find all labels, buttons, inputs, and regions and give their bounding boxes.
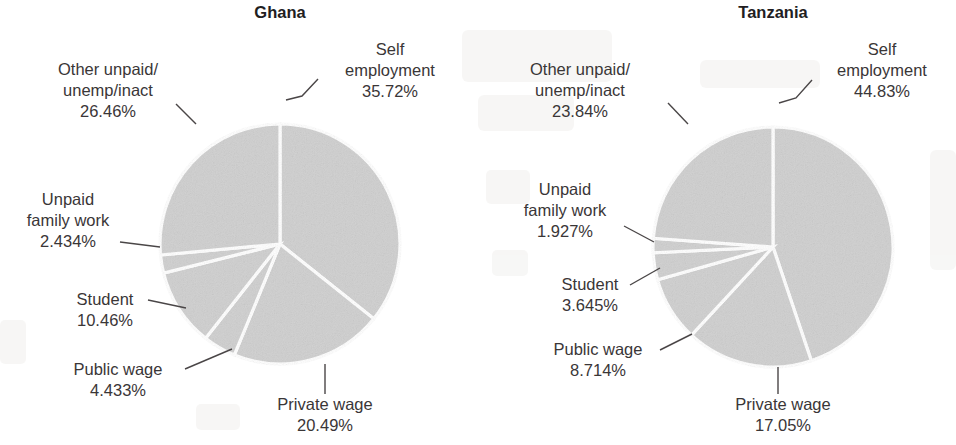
pie-slices-ghana [160,124,400,364]
slice-label-line: 17.05% [755,416,811,434]
slice-label-line: family work [524,201,607,219]
slice-label-line: unemp/inact [535,81,625,99]
slice-label-line: Student [77,290,134,308]
pie-ghana [160,124,400,364]
slice-label-line: Unpaid [42,190,94,208]
pie-tanzania [653,127,893,367]
slice-label-line: 35.72% [362,82,418,100]
slice-label-line: Unpaid [539,180,591,198]
slice-label-line: 23.84% [552,102,608,120]
slice-label-line: 4.433% [90,381,146,399]
figure-container: Ghana Selfemployment35.72%Other unpaid/u… [0,0,956,445]
slice-label-line: family work [27,211,110,229]
pie-charts-figure: Ghana Selfemployment35.72%Other unpaid/u… [0,0,956,445]
slice-label-line: Private wage [277,395,372,413]
slice-label-line: 8.714% [570,361,626,379]
slice-label-line: employment [345,61,435,79]
slice-label-line: Student [562,275,619,293]
slice-label-line: Self [868,40,897,58]
slice-label-line: 26.46% [80,102,136,120]
chart-title-tanzania: Tanzania [738,3,808,21]
slice-label-line: Other unpaid/ [530,60,630,78]
slice-label-line: 2.434% [40,232,96,250]
slice-label-line: Public wage [74,360,163,378]
slice-label-line: Other unpaid/ [58,60,158,78]
slice-label-line: 1.927% [537,222,593,240]
slice-label-line: 3.645% [562,296,618,314]
slice-label-line: unemp/inact [63,81,153,99]
slice-label-line: 10.46% [77,311,133,329]
slice-label-line: Public wage [554,340,643,358]
pie-slices-tanzania [653,127,893,367]
slice-label-line: Private wage [735,395,830,413]
chart-title-ghana: Ghana [254,3,306,21]
slice-label-line: Self [376,40,405,58]
slice-label-line: 20.49% [297,416,353,434]
slice-label-line: 44.83% [854,82,910,100]
slice-label-line: employment [837,61,927,79]
